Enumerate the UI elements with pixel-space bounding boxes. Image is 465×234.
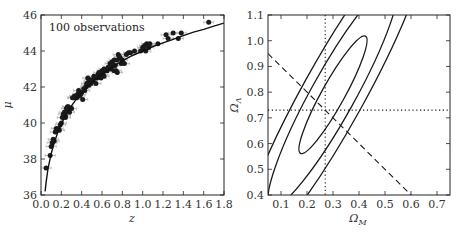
x-tick-label: 0.3	[324, 198, 342, 211]
x-tick-label: 1.2	[154, 198, 172, 211]
x-tick-label: 0.4	[73, 198, 91, 211]
y-tick-label: 46	[23, 9, 37, 22]
hubble-diagram-panel: 0.00.20.40.60.81.01.21.41.61.83638404244…	[1, 9, 233, 225]
omega-symbol: Ω	[348, 212, 358, 225]
data-point	[147, 41, 152, 46]
x-tick-label: 0.1	[272, 198, 290, 211]
x-tick-label: 0.5	[376, 198, 394, 211]
right-plot-frame	[268, 15, 450, 195]
omega-subscript: M	[357, 218, 367, 227]
y-axis-label-omega-lambda: ΩΛ	[228, 97, 243, 113]
y-tick-label: 42	[23, 81, 37, 94]
x-axis-label-z: z	[128, 212, 135, 225]
x-tick-label: 0.8	[114, 198, 132, 211]
flat-universe-dashed-line	[268, 54, 411, 195]
omega-contour-panel: 0.10.20.30.40.50.60.70.40.50.60.70.80.91…	[216, 0, 450, 234]
y-tick-label: 38	[23, 153, 37, 166]
x-axis-label-omega-m: ΩM	[348, 212, 367, 227]
x-tick-label: 1.0	[134, 198, 152, 211]
y-tick-label: 44	[23, 45, 37, 58]
y-tick-label: 0.8	[247, 86, 265, 99]
data-point	[206, 20, 211, 25]
data-point	[80, 97, 85, 102]
data-points	[44, 20, 212, 171]
x-tick-label: 0.2	[53, 198, 71, 211]
observations-annotation: 100 observations	[49, 21, 145, 34]
x-tick-label: 0.6	[402, 198, 420, 211]
data-point	[179, 31, 184, 36]
y-tick-label: 0.7	[247, 112, 265, 125]
error-bars	[41, 21, 214, 170]
x-tick-label: 0.6	[93, 198, 111, 211]
x-tick-label: 1.4	[175, 198, 193, 211]
contour-1-sigma	[290, 31, 375, 159]
y-tick-label: 1.1	[247, 9, 265, 22]
data-point	[171, 31, 176, 36]
y-tick-label: 0.6	[247, 138, 265, 151]
y-tick-label: 0.9	[247, 60, 265, 73]
x-tick-label: 0.7	[428, 198, 446, 211]
y-axis-label-mu: μ	[1, 101, 14, 108]
reference-lines	[268, 15, 450, 195]
y-tick-label: 36	[23, 189, 37, 202]
data-point	[93, 81, 98, 86]
y-tick-label: 40	[23, 117, 37, 130]
data-point	[132, 49, 137, 54]
data-point	[115, 70, 120, 75]
data-point	[122, 61, 127, 66]
x-tick-label: 1.6	[195, 198, 213, 211]
x-tick-label: 0.2	[298, 198, 316, 211]
x-tick-label: 0.4	[350, 198, 368, 211]
y-tick-label: 1.0	[247, 35, 265, 48]
y-tick-label: 0.5	[247, 163, 265, 176]
data-point	[70, 95, 75, 100]
y-tick-label: 0.4	[247, 189, 265, 202]
omega-symbol: Ω	[228, 103, 241, 113]
x-tick-label: 1.8	[215, 198, 233, 211]
omega-subscript: Λ	[234, 97, 243, 104]
figure: 0.00.20.40.60.81.01.21.41.61.83638404244…	[0, 0, 465, 234]
left-axis-ticks: 0.00.20.40.60.81.01.21.41.61.83638404244…	[23, 9, 233, 211]
